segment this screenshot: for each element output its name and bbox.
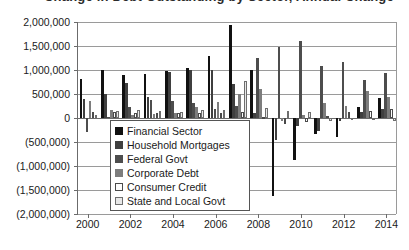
legend-swatch-icon	[115, 155, 123, 163]
legend-label: Corporate Debt	[127, 168, 199, 178]
legend-item: Federal Govt	[115, 152, 245, 166]
bar-group-2009	[272, 22, 290, 214]
bar	[83, 99, 86, 118]
y-axis-labels: 2,000,0001,500,0001,000,000500,0000(500,…	[0, 0, 75, 250]
legend-item: Household Mortgages	[115, 138, 245, 152]
bar	[317, 118, 320, 131]
bar-group-2011	[314, 22, 332, 214]
debt-change-bar-chart: Change in Debt Outstanding by Sector, An…	[0, 0, 409, 250]
legend-item: State and Local Govt	[115, 194, 245, 208]
x-axis-tick-mark	[130, 214, 131, 218]
legend-swatch-icon	[115, 127, 123, 135]
x-axis-tick-label: 2006	[204, 218, 227, 230]
legend-item: Consumer Credit	[115, 180, 245, 194]
bar-group-2014	[378, 22, 396, 214]
y-axis-tick-label: 2,000,000	[23, 17, 70, 27]
legend-label: State and Local Govt	[127, 196, 225, 206]
chart-legend: Financial SectorHousehold MortgagesFeder…	[110, 120, 250, 211]
bar-group-2000	[80, 22, 98, 214]
bar	[259, 89, 262, 118]
bar	[287, 111, 290, 118]
bar	[104, 94, 107, 118]
x-axis-tick-mark	[301, 214, 302, 218]
y-axis-tick-label: 500,000	[32, 89, 70, 99]
legend-label: Financial Sector	[127, 126, 202, 136]
gridline	[78, 214, 396, 215]
x-axis-tick-label: 2014	[375, 218, 398, 230]
bar	[393, 118, 396, 121]
x-axis-tick-label: 2000	[76, 218, 99, 230]
x-axis-tick-label: 2012	[332, 218, 355, 230]
bar	[250, 70, 253, 118]
y-axis-tick-label: 1,500,000	[23, 41, 70, 51]
bar	[339, 118, 342, 121]
y-axis-tick-label: (500,000)	[25, 137, 70, 147]
legend-label: Federal Govt	[127, 154, 188, 164]
bar	[137, 110, 140, 118]
y-axis-tick-mark	[74, 214, 78, 215]
bar	[86, 118, 89, 132]
legend-swatch-icon	[115, 197, 123, 205]
chart-title: Change in Debt Outstanding by Sector, An…	[44, 0, 394, 4]
bar	[116, 111, 119, 118]
y-axis-tick-label: (1,000,000)	[16, 161, 70, 171]
legend-item: Corporate Debt	[115, 166, 245, 180]
bar	[265, 108, 268, 118]
y-axis-tick-label: (1,500,000)	[16, 185, 70, 195]
legend-swatch-icon	[115, 169, 123, 177]
bar	[244, 81, 247, 118]
x-axis-tick-label: 2010	[289, 218, 312, 230]
bar	[159, 111, 162, 118]
x-axis-tick-mark	[386, 214, 387, 218]
bar-group-2013	[357, 22, 375, 214]
bar	[95, 115, 98, 118]
y-axis-tick-label: (2,000,000)	[16, 209, 70, 219]
bar	[180, 112, 183, 118]
y-axis-tick-label: 0	[64, 113, 70, 123]
legend-label: Consumer Credit	[127, 182, 206, 192]
y-axis-tick-label: 1,000,000	[23, 65, 70, 75]
x-axis-tick-label: 2004	[161, 218, 184, 230]
x-axis-tick-mark	[88, 214, 89, 218]
x-axis-tick-mark	[216, 214, 217, 218]
x-axis-tick-label: 2002	[119, 218, 142, 230]
bar	[372, 118, 375, 120]
bar	[329, 118, 332, 121]
legend-swatch-icon	[115, 141, 123, 149]
x-axis-tick-mark	[258, 214, 259, 218]
x-axis-labels: 20002002200420062008201020122014	[77, 216, 397, 238]
bar	[275, 118, 278, 140]
bar	[299, 41, 302, 118]
bar	[201, 110, 204, 118]
bar	[284, 118, 287, 124]
legend-swatch-icon	[115, 183, 123, 191]
bar	[308, 112, 311, 118]
bar	[278, 47, 281, 118]
bar-group-2010	[293, 22, 311, 214]
bar	[223, 110, 226, 118]
bar	[305, 118, 308, 122]
bar-group-2012	[336, 22, 354, 214]
x-axis-tick-label: 2008	[247, 218, 270, 230]
bar-group-2008	[250, 22, 268, 214]
x-axis-tick-mark	[344, 214, 345, 218]
bar	[390, 109, 393, 118]
legend-label: Household Mortgages	[127, 140, 230, 150]
bar	[369, 111, 372, 118]
legend-item: Financial Sector	[115, 124, 245, 138]
bar	[351, 118, 354, 120]
bar	[296, 118, 299, 126]
x-axis-tick-mark	[173, 214, 174, 218]
